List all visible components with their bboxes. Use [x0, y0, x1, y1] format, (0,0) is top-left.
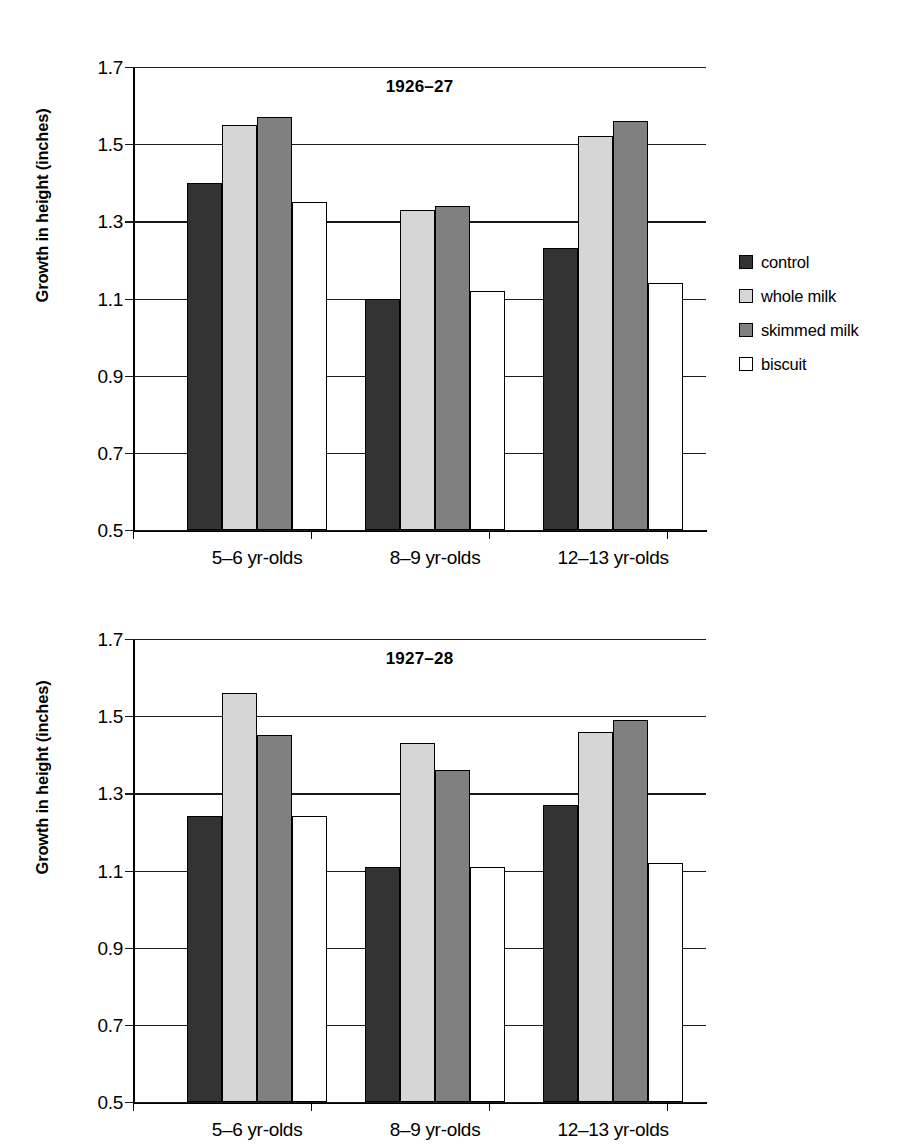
- legend-item-control: control: [739, 245, 859, 279]
- x-tick-1: [311, 530, 312, 539]
- x-axis-label-2: 12–13 yr-olds: [513, 1119, 713, 1141]
- x-tick-1: [311, 1102, 312, 1111]
- bar-biscuit-1: [470, 867, 505, 1102]
- y-tick-1.7: [125, 639, 133, 640]
- legend-1926: controlwhole milkskimmed milkbiscuit: [739, 245, 859, 381]
- y-tick-label-1.7: 1.7: [67, 630, 123, 649]
- bar-whole-milk-0: [222, 125, 257, 530]
- x-tick-3: [667, 1102, 668, 1111]
- legend-swatch-icon-skimmed-milk: [739, 323, 753, 337]
- legend-label: whole milk: [761, 287, 836, 306]
- y-tick-label-1.5: 1.5: [67, 707, 123, 726]
- y-tick-label-0.5: 0.5: [67, 521, 123, 540]
- x-tick-0: [133, 1102, 134, 1111]
- y-tick-label-1.5: 1.5: [67, 135, 123, 154]
- x-axis-label-2: 12–13 yr-olds: [513, 547, 713, 569]
- bar-whole-milk-1: [400, 210, 435, 530]
- y-tick-1.1: [125, 299, 133, 300]
- y-tick-label-1.7: 1.7: [67, 58, 123, 77]
- bar-biscuit-0: [292, 816, 327, 1102]
- legend-item-whole-milk: whole milk: [739, 279, 859, 313]
- y-tick-0.5: [125, 1102, 133, 1103]
- y-tick-1.5: [125, 144, 133, 145]
- y-tick-0.7: [125, 1025, 133, 1026]
- x-tick-2: [489, 530, 490, 539]
- chart-1926-27: Growth in height (inches) 1926–27 1.71.5…: [0, 0, 907, 572]
- gridline-0.5: [133, 530, 706, 531]
- bar-control-2: [543, 805, 578, 1102]
- y-tick-1.3: [125, 221, 133, 222]
- y-tick-1.5: [125, 716, 133, 717]
- bar-biscuit-2: [648, 863, 683, 1102]
- bar-whole-milk-2: [578, 136, 613, 530]
- plot-area-1927: 1927–28 1.71.51.31.10.90.70.5 5–6 yr-old…: [133, 639, 706, 1102]
- legend-swatch-icon-control: [739, 255, 753, 269]
- y-tick-label-0.9: 0.9: [67, 366, 123, 385]
- bar-control-0: [187, 183, 222, 530]
- y-tick-0.9: [125, 376, 133, 377]
- y-tick-1.1: [125, 871, 133, 872]
- bar-control-1: [365, 299, 400, 531]
- chart-1927-28: Growth in height (inches) 1927–28 1.71.5…: [0, 572, 907, 1144]
- y-axis-title-1926: Growth in height (inches): [33, 16, 52, 396]
- bar-biscuit-2: [648, 283, 683, 530]
- y-tick-label-0.7: 0.7: [67, 443, 123, 462]
- y-tick-label-0.5: 0.5: [67, 1093, 123, 1112]
- legend-swatch-icon-biscuit: [739, 357, 753, 371]
- y-tick-0.5: [125, 530, 133, 531]
- y-tick-label-1.3: 1.3: [67, 212, 123, 231]
- bar-control-1: [365, 867, 400, 1102]
- x-axis-label-1: 8–9 yr-olds: [335, 547, 535, 569]
- legend-item-skimmed-milk: skimmed milk: [739, 313, 859, 347]
- y-tick-0.7: [125, 453, 133, 454]
- y-tick-label-1.1: 1.1: [67, 861, 123, 880]
- bar-skimmed-milk-0: [257, 117, 292, 530]
- bar-whole-milk-2: [578, 732, 613, 1102]
- y-tick-1.3: [125, 793, 133, 794]
- bars-1927: [133, 639, 706, 1102]
- y-tick-label-0.9: 0.9: [67, 938, 123, 957]
- bar-skimmed-milk-1: [435, 770, 470, 1102]
- y-tick-label-0.7: 0.7: [67, 1015, 123, 1034]
- bar-control-0: [187, 816, 222, 1102]
- legend-label: skimmed milk: [761, 321, 859, 340]
- x-axis-label-0: 5–6 yr-olds: [157, 547, 357, 569]
- y-tick-0.9: [125, 948, 133, 949]
- plot-area-1926: 1926–27 1.71.51.31.10.90.70.5 5–6 yr-old…: [133, 67, 706, 530]
- y-axis-title-1927: Growth in height (inches): [33, 588, 52, 968]
- bar-skimmed-milk-0: [257, 735, 292, 1102]
- bar-skimmed-milk-1: [435, 206, 470, 530]
- legend-item-biscuit: biscuit: [739, 347, 859, 381]
- y-tick-1.7: [125, 67, 133, 68]
- x-tick-3: [667, 530, 668, 539]
- bar-biscuit-0: [292, 202, 327, 530]
- bar-whole-milk-1: [400, 743, 435, 1102]
- bar-control-2: [543, 248, 578, 530]
- bar-skimmed-milk-2: [613, 720, 648, 1102]
- legend-label: control: [761, 253, 809, 272]
- legend-label: biscuit: [761, 355, 806, 374]
- gridline-0.5: [133, 1102, 706, 1103]
- bar-skimmed-milk-2: [613, 121, 648, 530]
- x-axis-label-0: 5–6 yr-olds: [157, 1119, 357, 1141]
- x-axis-label-1: 8–9 yr-olds: [335, 1119, 535, 1141]
- bar-whole-milk-0: [222, 693, 257, 1102]
- x-tick-0: [133, 530, 134, 539]
- bar-biscuit-1: [470, 291, 505, 530]
- legend-swatch-icon-whole-milk: [739, 289, 753, 303]
- y-tick-label-1.1: 1.1: [67, 289, 123, 308]
- x-tick-2: [489, 1102, 490, 1111]
- bars-1926: [133, 67, 706, 530]
- y-tick-label-1.3: 1.3: [67, 784, 123, 803]
